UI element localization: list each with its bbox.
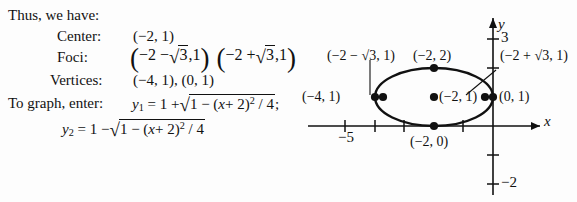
x-axis-label: x [544, 113, 551, 130]
equation-y1-radicand: 1 − (x+ 2)2 / 4 [189, 94, 275, 113]
equation-y2-operator: = 1 − [78, 121, 110, 137]
foci-right-radical: √3 [256, 45, 275, 68]
y1-radicand-mid: + 2) [225, 96, 250, 112]
foci-right-close-paren: ) [287, 43, 296, 73]
foci-left-close-paren: ) [200, 43, 209, 73]
point-center [430, 93, 438, 101]
foci-left-radicand: 3 [178, 45, 188, 64]
y2-radicand-tail: / 4 [185, 121, 204, 137]
y1-radicand-x: x [218, 96, 225, 112]
equation-y1-subscript: 1 [139, 102, 144, 113]
point-vertex-right [489, 93, 497, 101]
equation-y1-terminator: ; [275, 96, 279, 112]
equation-y2-variable: y [62, 121, 69, 137]
label-vertex-right: (0, 1) [499, 89, 529, 105]
point-covertex-bottom [430, 122, 438, 130]
figure-page: Thus, we have: Center: (−2, 1) Foci: (−2… [0, 0, 577, 202]
label-to-graph: To graph, enter: [8, 95, 103, 112]
solution-lead: Thus, we have: [8, 7, 99, 24]
foci-right-prefix: −2 + [225, 46, 255, 63]
equation-y2: y2 = 1 −√1 − (x+ 2)2 / 4 [62, 119, 205, 141]
point-vertex-left [371, 93, 379, 101]
x-axis-arrow [531, 122, 540, 130]
value-foci: (−2 −√3,1)(−2 +√3,1) [130, 43, 296, 74]
equation-y1: y1 = 1 +√1 − (x+ 2)2 / 4; [132, 94, 279, 116]
foci-left-prefix: −2 − [139, 46, 169, 63]
point-covertex-top [430, 64, 438, 72]
foci-right-suffix: ,1 [275, 46, 287, 63]
y1-radicand-lead: 1 − ( [190, 96, 218, 112]
label-focus-left: (−2 − √3, 1) [327, 48, 395, 64]
label-center-point: (−2, 1) [439, 89, 477, 105]
x-tick-label-neg5: −5 [338, 129, 354, 146]
equation-y1-operator: = 1 + [148, 96, 180, 112]
label-bottom-vertex: (−2, 0) [410, 134, 448, 150]
label-focus-right: (−2 + √3, 1) [500, 48, 568, 64]
equation-y2-radicand: 1 − (x+ 2)2 / 4 [119, 119, 205, 138]
y2-radicand-lead: 1 − ( [120, 121, 148, 137]
label-top-vertex: (−2, 2) [413, 48, 451, 64]
equation-y2-radical: √1 − (x+ 2)2 / 4 [109, 119, 205, 141]
foci-left-radical: √3 [169, 45, 188, 68]
y-tick-label-3: 3 [501, 29, 509, 46]
foci-left-open-paren: ( [130, 43, 139, 73]
point-focus-left [379, 93, 387, 101]
equation-y2-subscript: 2 [69, 127, 74, 138]
equation-y1-radical: √1 − (x+ 2)2 / 4 [179, 94, 275, 116]
foci-left-suffix: ,1 [188, 46, 200, 63]
y-tick-label-neg2: −2 [501, 174, 517, 191]
point-focus-right [481, 93, 489, 101]
value-vertices: (−4, 1), (0, 1) [133, 72, 214, 89]
y1-radicand-tail: / 4 [255, 96, 274, 112]
y-axis-arrow [489, 18, 497, 28]
label-center: Center: [57, 28, 101, 45]
foci-right-radicand: 3 [265, 45, 275, 64]
label-foci: Foci: [57, 49, 88, 66]
label-vertices: Vertices: [50, 72, 102, 89]
y2-radicand-mid: + 2) [155, 121, 180, 137]
equation-y1-variable: y [132, 96, 139, 112]
y2-radicand-x: x [148, 121, 155, 137]
label-vertex-left: (−4, 1) [302, 89, 340, 105]
ellipse-graph: x y −5 3 −2 (−2 − √3, 1) (−2, 2) (−2 + √… [300, 0, 577, 202]
